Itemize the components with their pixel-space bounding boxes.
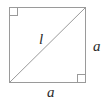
diagonal-line: [10, 8, 86, 83]
diagonal-length-label: l: [39, 32, 43, 47]
right-side-length-label: a: [93, 39, 101, 54]
right-angle-marker-bottom-right-icon: [78, 75, 86, 83]
bottom-side-length-label: a: [47, 85, 55, 100]
right-angle-marker-top-left-icon: [10, 8, 18, 16]
geometry-figure: l a a: [0, 0, 110, 103]
